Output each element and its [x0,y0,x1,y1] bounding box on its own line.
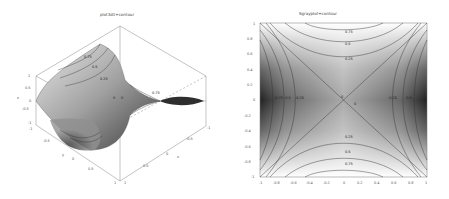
svg-text:0.6: 0.6 [247,52,253,56]
svg-text:0: 0 [343,181,345,185]
plot3d-title: plot3d1+contour [100,12,134,17]
svg-text:0.8: 0.8 [408,181,414,185]
grayplot-title: Sgrayplot+contour [299,11,337,16]
svg-text:0.5: 0.5 [345,42,351,46]
svg-text:-0.6: -0.6 [290,181,297,185]
svg-text:0.75: 0.75 [345,30,353,34]
svg-text:-0.4: -0.4 [244,129,252,133]
svg-text:-0.4: -0.4 [306,181,314,185]
svg-text:0.4: 0.4 [374,181,380,185]
svg-text:1: 1 [425,181,427,185]
svg-text:-1: -1 [28,121,32,125]
svg-text:1: 1 [124,181,126,185]
svg-text:0.2: 0.2 [247,83,253,87]
svg-text:-0.5: -0.5 [43,139,50,143]
svg-text:0.5: 0.5 [88,167,94,171]
svg-text:0.75: 0.75 [152,91,160,95]
svg-text:0.5: 0.5 [143,164,149,168]
svg-text:-0.5: -0.5 [22,107,29,111]
svg-text:0.25: 0.25 [100,77,108,81]
svg-text:y: y [62,153,64,157]
svg-text:0: 0 [253,98,255,102]
plot3d-panel: plot3d1+contour [0,0,225,199]
svg-text:0: 0 [72,157,74,161]
svg-text:-0.2: -0.2 [244,114,251,118]
svg-text:0.4: 0.4 [247,68,253,72]
svg-text:0.8: 0.8 [247,37,253,41]
svg-text:-0.5: -0.5 [405,96,412,100]
svg-text:-0.8: -0.8 [273,181,280,185]
svg-text:0: 0 [113,96,115,100]
svg-text:0.6: 0.6 [391,181,397,185]
svg-text:x: x [177,155,179,159]
svg-text:0: 0 [341,95,343,99]
svg-text:0: 0 [166,152,168,156]
svg-text:0.5: 0.5 [25,86,31,90]
svg-text:-0.2: -0.2 [323,181,330,185]
svg-text:0: 0 [29,99,31,103]
svg-text:-1: -1 [259,181,263,185]
svg-text:-0.5: -0.5 [284,96,291,100]
svg-text:0.2: 0.2 [357,181,363,185]
plot3d-chart: 0.75 0.5 0.25 0 0 0.75 1 0.5 0 -0.5 -1 -… [0,0,225,199]
svg-text:-0.25: -0.25 [295,96,304,100]
svg-text:-1: -1 [251,175,255,179]
svg-text:0.5: 0.5 [92,65,98,69]
svg-text:0: 0 [354,102,356,106]
svg-text:0: 0 [121,96,123,100]
svg-text:-0.6: -0.6 [244,145,251,149]
svg-text:0.75: 0.75 [84,55,92,59]
svg-text:1: 1 [253,22,255,26]
svg-text:0.75: 0.75 [345,162,353,166]
svg-text:1: 1 [114,181,116,185]
grayplot-panel: Sgrayplot+contour [225,0,449,199]
svg-text:-1: -1 [207,126,211,130]
svg-text:-0.8: -0.8 [244,160,251,164]
svg-text:-1: -1 [29,127,33,131]
svg-text:-0.75: -0.75 [274,96,283,100]
svg-text:-0.5: -0.5 [186,137,193,141]
svg-text:0.25: 0.25 [345,57,353,61]
svg-text:0.5: 0.5 [345,150,351,154]
svg-text:-0.25: -0.25 [388,96,397,100]
svg-text:1: 1 [28,74,30,78]
svg-text:0.25: 0.25 [345,135,353,139]
svg-text:z: z [17,96,19,100]
grayplot-chart: 0.75 0.5 0.25 0.25 0.5 0.75 -0.75 -0.5 -… [225,0,449,199]
